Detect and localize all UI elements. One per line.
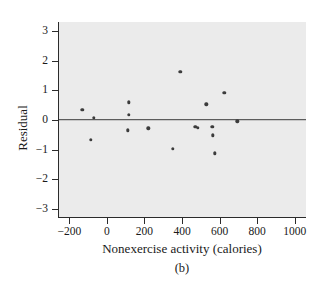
x-axis-tick-label: 1000: [265, 226, 325, 238]
x-axis-tick: [144, 218, 145, 224]
y-axis-tick: [52, 179, 58, 180]
residual-plot-figure: 3210−1−2−3 −20002004006008001000 Residua…: [0, 0, 326, 285]
data-point: [178, 70, 181, 73]
y-axis-tick-label: −3: [8, 203, 48, 215]
y-axis-tick: [52, 150, 58, 151]
data-point: [171, 147, 174, 150]
y-axis-tick: [52, 209, 58, 210]
y-axis-tick-label: 3: [8, 25, 48, 37]
data-point: [127, 113, 130, 116]
x-axis-title: Nonexercise activity (calories): [58, 241, 306, 257]
data-point: [89, 138, 92, 141]
data-point: [205, 103, 208, 106]
zero-reference-line: [59, 119, 306, 120]
y-axis-tick: [52, 120, 58, 121]
data-point: [196, 126, 199, 129]
data-point: [127, 100, 130, 103]
data-point: [210, 125, 213, 128]
x-axis-tick: [182, 218, 183, 224]
y-axis-tick: [52, 90, 58, 91]
plot-area: [58, 22, 306, 218]
y-axis-tick: [52, 31, 58, 32]
x-axis-tick: [257, 218, 258, 224]
data-point: [211, 134, 214, 137]
x-axis-tick: [69, 218, 70, 224]
x-axis-tick: [220, 218, 221, 224]
data-point: [81, 108, 84, 111]
data-point: [236, 120, 239, 123]
data-point: [213, 152, 216, 155]
data-point: [147, 127, 150, 130]
data-point: [223, 91, 226, 94]
x-axis-tick: [295, 218, 296, 224]
data-point: [126, 129, 129, 132]
x-axis-tick: [107, 218, 108, 224]
y-axis-tick: [52, 61, 58, 62]
y-axis-title: Residual: [15, 58, 31, 198]
panel-caption: (b): [58, 261, 306, 276]
